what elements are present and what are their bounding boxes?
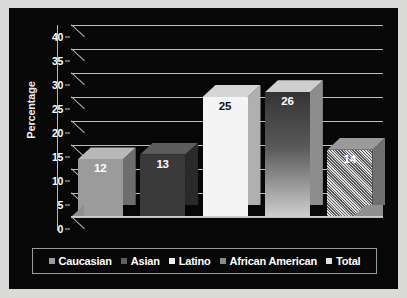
legend-label: Caucasian (59, 255, 112, 267)
x-axis-baseline (71, 216, 383, 217)
depth-connector (71, 72, 85, 85)
y-axis-label: Percentage (25, 70, 37, 150)
depth-connector (71, 48, 85, 61)
legend-label: Total (336, 255, 360, 267)
bar-column: 25 (203, 85, 248, 217)
chart-panel: Percentage 4035302520151050 1213252614 C… (9, 8, 398, 289)
bar-column: 26 (265, 80, 310, 217)
page-root: Percentage 4035302520151050 1213252614 C… (0, 0, 407, 298)
bar-value-label: 25 (203, 100, 248, 112)
bar-column: 12 (78, 147, 123, 217)
depth-connector (71, 120, 85, 133)
bar-front-face (265, 92, 310, 217)
bar-side-face (310, 80, 323, 205)
bar-side-face (248, 85, 261, 205)
depth-connector (71, 216, 85, 229)
depth-connector (71, 24, 85, 37)
plot-area: 1213252614 (71, 25, 383, 217)
legend-swatch-icon (220, 258, 226, 264)
gridline (71, 73, 383, 74)
legend-swatch-icon (326, 258, 332, 264)
gridline (71, 217, 383, 218)
legend-item[interactable]: Latino (169, 255, 211, 267)
legend-item[interactable]: African American (220, 255, 317, 267)
gridline (71, 25, 383, 26)
bar-column: 14 (327, 138, 372, 217)
legend-label: Asian (131, 255, 160, 267)
gridline (71, 49, 383, 50)
bar-column: 13 (140, 143, 185, 217)
legend-swatch-icon (49, 258, 55, 264)
legend-item[interactable]: Asian (121, 255, 160, 267)
bar-front-face (203, 97, 248, 217)
legend-item[interactable]: Caucasian (49, 255, 112, 267)
depth-connector (71, 96, 85, 109)
legend-swatch-icon (121, 258, 127, 264)
legend-swatch-icon (169, 258, 175, 264)
bar-value-label: 14 (327, 153, 372, 165)
legend-item[interactable]: Total (326, 255, 360, 267)
bar-value-label: 12 (78, 162, 123, 174)
plot-left-wall (57, 25, 72, 231)
legend-label: African American (230, 255, 317, 267)
legend-label: Latino (179, 255, 211, 267)
bar-value-label: 26 (265, 95, 310, 107)
bar-value-label: 13 (140, 158, 185, 170)
chart-legend: CaucasianAsianLatinoAfrican AmericanTota… (32, 248, 377, 274)
